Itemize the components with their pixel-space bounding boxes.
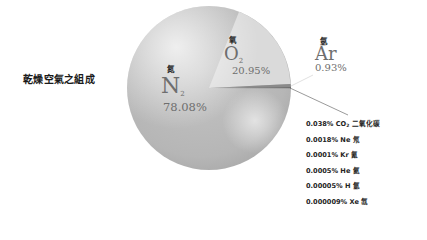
trace-item-he: 0.0005% He 氦 [306, 164, 380, 180]
trace-item-xe: 0.000009% Xe 氙 [306, 195, 380, 207]
leader-line-trace [290, 88, 348, 115]
ar-symbol: Ar [315, 45, 337, 63]
n2-symbol: N2 [161, 75, 185, 98]
trace-item-co2: 0.038% CO2 二氧化碳 [306, 117, 380, 133]
n2-percent: 78.08% [163, 102, 207, 114]
ar-percent: 0.93% [315, 63, 347, 73]
trace-gas-list: 0.038% CO2 二氧化碳 0.0018% Ne 氖 0.0001% Kr … [306, 117, 380, 206]
trace-item-h: 0.00005% H 氫 [306, 179, 380, 195]
o2-symbol: O2 [224, 45, 243, 65]
trace-item-ne: 0.0018% Ne 氖 [306, 133, 380, 149]
o2-percent: 20.95% [232, 66, 270, 76]
leader-line-ar [291, 75, 313, 86]
trace-item-kr: 0.0001% Kr 氪 [306, 148, 380, 164]
